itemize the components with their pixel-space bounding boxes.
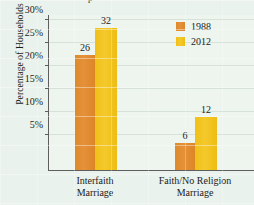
legend-label-1988: 1988 bbox=[191, 22, 211, 32]
plot-area: 5% 10% 15% 20% 25% 30% 35% 26 32 6 12 bbox=[48, 15, 254, 171]
y-axis-title: Percentage of Households bbox=[15, 0, 25, 124]
y-tick-label-15: 15% bbox=[25, 73, 43, 84]
y-tick-label-25: 25% bbox=[25, 27, 43, 38]
bar-value-interfaith-1988: 26 bbox=[80, 42, 90, 53]
y-tick-label-10: 10% bbox=[25, 96, 43, 107]
y-tick-mark-30 bbox=[45, 19, 49, 20]
y-tick-mark-20 bbox=[45, 65, 49, 66]
x-axis-label-interfaith-line2: Marriage bbox=[76, 187, 113, 199]
bar-interfaith-2012[interactable] bbox=[95, 28, 117, 170]
truncated-chart-title: p bbox=[88, 0, 97, 4]
y-tick-mark-10 bbox=[45, 111, 49, 112]
bar-faith-no-religion-2012[interactable] bbox=[195, 117, 217, 170]
x-axis-label-faith-no-religion-line1: Faith/No Religion bbox=[159, 175, 232, 187]
legend-swatch-2012-icon bbox=[176, 37, 185, 46]
chart-legend: 1988 2012 bbox=[176, 19, 211, 49]
bar-chart-figure: p Percentage of Households 5% 10% 15% 20… bbox=[0, 0, 254, 205]
y-tick-label-20: 20% bbox=[25, 50, 43, 61]
y-tick-mark-25 bbox=[45, 42, 49, 43]
legend-label-2012: 2012 bbox=[191, 37, 211, 47]
legend-item-2012[interactable]: 2012 bbox=[176, 34, 211, 49]
y-tick-label-30: 30% bbox=[25, 4, 43, 15]
bar-value-interfaith-2012: 32 bbox=[101, 15, 111, 26]
legend-swatch-1988-icon bbox=[176, 22, 185, 31]
x-axis-label-faith-no-religion-line2: Marriage bbox=[159, 187, 232, 199]
legend-item-1988[interactable]: 1988 bbox=[176, 19, 211, 34]
x-axis-label-interfaith: Interfaith Marriage bbox=[76, 175, 113, 198]
y-tick-mark-15 bbox=[45, 88, 49, 89]
bar-faith-no-religion-1988[interactable] bbox=[175, 143, 195, 170]
y-tick-mark-5 bbox=[45, 134, 49, 135]
bar-interfaith-1988[interactable] bbox=[75, 55, 95, 170]
x-axis-label-interfaith-line1: Interfaith bbox=[76, 175, 113, 187]
bar-value-faith-no-religion-1988: 6 bbox=[183, 130, 188, 141]
gridline-30 bbox=[49, 19, 254, 20]
bar-value-faith-no-religion-2012: 12 bbox=[201, 104, 211, 115]
y-tick-label-5: 5% bbox=[30, 119, 43, 130]
x-axis-label-faith-no-religion: Faith/No Religion Marriage bbox=[159, 175, 232, 198]
